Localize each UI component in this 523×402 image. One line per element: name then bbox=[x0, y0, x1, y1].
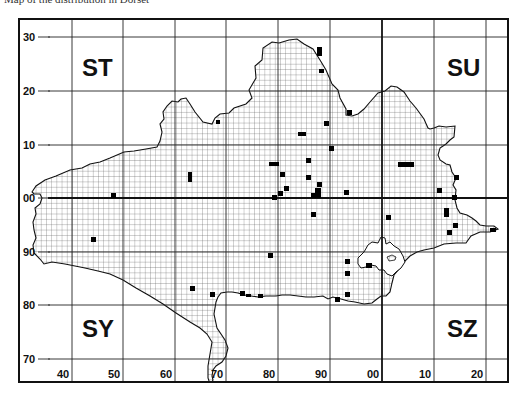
map-frame bbox=[18, 18, 509, 383]
